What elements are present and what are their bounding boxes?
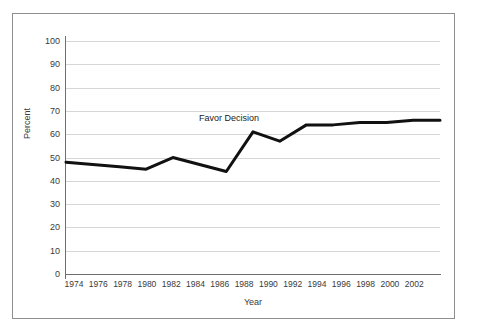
ytick-label: 30	[20, 199, 60, 209]
ytick-label: 50	[20, 153, 60, 163]
xtick-label: 2002	[399, 279, 429, 289]
y-axis-ticks: 100 90 80 70 60 50 40 30 20 10 0	[16, 0, 60, 336]
ytick-label: 10	[20, 246, 60, 256]
ytick-label: 100	[20, 36, 60, 46]
data-series-line	[66, 41, 440, 274]
series-annotation-label: Favor Decision	[199, 113, 259, 123]
x-axis-line	[65, 274, 441, 275]
x-axis-label: Year	[66, 297, 440, 307]
y-axis-label: Percent	[22, 108, 32, 139]
ytick-label: 80	[20, 83, 60, 93]
chart-figure: 100 90 80 70 60 50 40 30 20 10 0 1974 19…	[0, 0, 477, 336]
ytick-label: 40	[20, 176, 60, 186]
ytick-label: 0	[20, 269, 60, 279]
ytick-label: 90	[20, 59, 60, 69]
series-polyline	[66, 120, 440, 171]
ytick-label: 20	[20, 222, 60, 232]
